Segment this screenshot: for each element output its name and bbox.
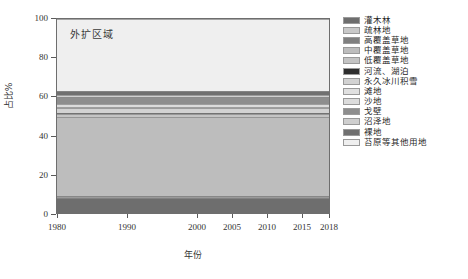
legend-item[interactable]: 中覆盖草地 xyxy=(343,46,465,56)
x-tick-label: 2018 xyxy=(320,222,338,232)
x-tick-label: 2000 xyxy=(188,222,206,232)
x-tick-mark xyxy=(329,214,330,218)
area-band-edge xyxy=(57,117,329,118)
legend-item-label: 永久冰川积雪 xyxy=(364,77,418,86)
legend-item[interactable]: 沼泽地 xyxy=(343,117,465,127)
legend-item-label: 疏林地 xyxy=(364,26,391,35)
plot-area xyxy=(56,18,330,214)
x-tick-label: 1980 xyxy=(48,222,66,232)
legend-item[interactable]: 沙地 xyxy=(343,97,465,107)
x-tick-mark xyxy=(57,214,58,218)
x-tick-mark xyxy=(232,214,233,218)
legend-swatch-icon xyxy=(343,17,360,24)
area-band-edge xyxy=(57,95,329,96)
legend-swatch-icon xyxy=(343,78,360,85)
y-tick-label: 100 xyxy=(35,13,49,23)
legend-item[interactable]: 灌木林 xyxy=(343,15,465,25)
legend-item-label: 沙地 xyxy=(364,97,382,106)
area-band-edge xyxy=(57,108,329,109)
area-band xyxy=(57,117,329,195)
x-tick-mark xyxy=(127,214,128,218)
area-band-edge xyxy=(57,198,329,199)
legend-item-label: 灌木林 xyxy=(364,16,391,25)
legend-item-label: 中覆盖草地 xyxy=(364,46,409,55)
legend-item-label: 裸地 xyxy=(364,128,382,137)
x-axis: 1980 1990 2000 2005 2010 2015 2018 xyxy=(0,214,468,236)
area-band-edge xyxy=(57,97,329,98)
area-band-edge xyxy=(57,104,329,105)
legend-swatch-icon xyxy=(343,139,360,146)
y-tick-label: 80 xyxy=(39,52,48,62)
y-tick-label: 20 xyxy=(39,170,48,180)
plot-annotation: 外扩区域 xyxy=(70,26,114,41)
legend-item-label: 低覆盖草地 xyxy=(364,56,409,65)
legend-item-label: 滩地 xyxy=(364,87,382,96)
stacked-area-bands xyxy=(57,19,329,213)
legend-item-label: 苔原等其他用地 xyxy=(364,138,427,147)
area-band xyxy=(57,198,329,213)
area-band-edge xyxy=(57,197,329,198)
area-band-edge xyxy=(57,114,329,115)
area-band-edge xyxy=(57,107,329,108)
legend-item[interactable]: 裸地 xyxy=(343,127,465,137)
legend-item[interactable]: 低覆盖草地 xyxy=(343,56,465,66)
legend-item[interactable]: 滩地 xyxy=(343,86,465,96)
y-axis-title: 占比% xyxy=(2,83,15,110)
area-band-edge xyxy=(57,113,329,114)
legend-item-label: 戈壁 xyxy=(364,107,382,116)
legend-swatch-icon xyxy=(343,57,360,64)
area-band-edge xyxy=(57,91,329,92)
legend-item[interactable]: 苔原等其他用地 xyxy=(343,137,465,147)
x-tick-label: 2015 xyxy=(293,222,311,232)
legend-item-label: 河流、湖泊 xyxy=(364,67,409,76)
legend-swatch-icon xyxy=(343,37,360,44)
legend-item-label: 沼泽地 xyxy=(364,117,391,126)
legend-swatch-icon xyxy=(343,68,360,75)
legend-swatch-icon xyxy=(343,108,360,115)
legend-item[interactable]: 高覆盖草地 xyxy=(343,35,465,45)
area-band-edge xyxy=(57,196,329,197)
x-tick-mark xyxy=(302,214,303,218)
y-tick-label: 60 xyxy=(39,91,48,101)
legend-item[interactable]: 疏林地 xyxy=(343,25,465,35)
legend-swatch-icon xyxy=(343,47,360,54)
legend-swatch-icon xyxy=(343,129,360,136)
legend-swatch-icon xyxy=(343,98,360,105)
legend-swatch-icon xyxy=(343,27,360,34)
x-tick-label: 2005 xyxy=(223,222,241,232)
area-band-edge xyxy=(57,19,329,20)
legend-swatch-icon xyxy=(343,88,360,95)
x-tick-mark xyxy=(267,214,268,218)
legend-item[interactable]: 河流、湖泊 xyxy=(343,66,465,76)
y-tick-label: 40 xyxy=(39,131,48,141)
chart-legend: 灌木林疏林地高覆盖草地中覆盖草地低覆盖草地河流、湖泊永久冰川积雪滩地沙地戈壁沼泽… xyxy=(343,15,465,147)
x-axis-title: 年份 xyxy=(184,248,202,261)
legend-item[interactable]: 永久冰川积雪 xyxy=(343,76,465,86)
legend-item-label: 高覆盖草地 xyxy=(364,36,409,45)
x-tick-label: 2010 xyxy=(258,222,276,232)
chart-root: 0 20 40 60 80 100 占比% 外扩区域 1980 1990 200… xyxy=(0,0,468,279)
legend-swatch-icon xyxy=(343,118,360,125)
x-tick-label: 1990 xyxy=(118,222,136,232)
legend-item[interactable]: 戈壁 xyxy=(343,107,465,117)
area-band xyxy=(57,97,329,104)
x-tick-mark xyxy=(197,214,198,218)
